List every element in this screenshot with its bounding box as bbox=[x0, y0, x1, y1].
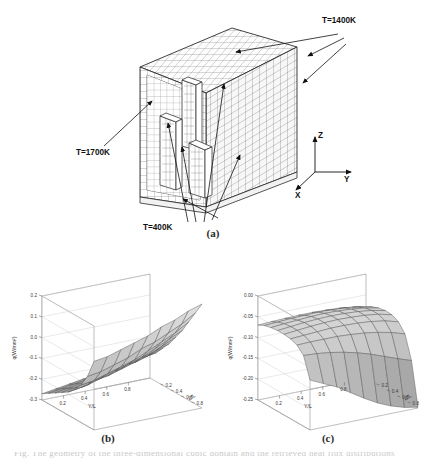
svg-text:0.2: 0.2 bbox=[59, 401, 66, 406]
svg-text:-0.10: -0.10 bbox=[243, 335, 254, 340]
label-t1700: T=1700K bbox=[76, 148, 110, 157]
label-t1400: T=1400K bbox=[322, 16, 356, 25]
svg-text:0.4: 0.4 bbox=[176, 389, 183, 394]
axis-triad: Z Y X bbox=[295, 131, 351, 200]
truncated-caption: Fig. The geometry of the three-dimension… bbox=[0, 452, 432, 468]
svg-text:0.8: 0.8 bbox=[340, 387, 347, 392]
svg-text:-0.1: -0.1 bbox=[29, 355, 37, 360]
svg-text:0.8: 0.8 bbox=[413, 401, 420, 406]
svg-text:0.4: 0.4 bbox=[297, 396, 304, 401]
svg-text:0.2: 0.2 bbox=[275, 401, 282, 406]
svg-text:0.6: 0.6 bbox=[319, 392, 326, 397]
axis-label-y: Y bbox=[344, 175, 350, 184]
axis-label-z: Z bbox=[318, 131, 323, 140]
svg-text:0.2: 0.2 bbox=[381, 383, 388, 388]
x-axis-title-b: Y/L bbox=[88, 403, 96, 409]
svg-text:-0.05: -0.05 bbox=[243, 314, 254, 319]
axis-label-x: X bbox=[295, 191, 301, 200]
figure-container: T=1400K T=1700K T=400K Z Y X (a) 0.20.10… bbox=[0, 0, 432, 468]
y-axis-title-b: Z/L bbox=[187, 392, 197, 401]
svg-text:0.4: 0.4 bbox=[392, 389, 399, 394]
svg-text:0.2: 0.2 bbox=[165, 383, 172, 388]
surface-c: 0.00-0.05-0.10-0.15-0.20-0.250.80.60.40.… bbox=[216, 252, 432, 444]
svg-text:-0.15: -0.15 bbox=[243, 355, 254, 360]
panel-b-surface-plot: 0.20.10.0-0.1-0.2-0.30.80.60.40.2Y/L0.80… bbox=[0, 252, 216, 444]
z-axis-title-b: q(W/mm²) bbox=[11, 336, 17, 359]
svg-text:0.4: 0.4 bbox=[81, 396, 88, 401]
svg-text:-0.2: -0.2 bbox=[29, 376, 37, 381]
caption-panel-c: (c) bbox=[308, 432, 348, 444]
surface-b: 0.20.10.0-0.1-0.2-0.30.80.60.40.2Y/L0.80… bbox=[0, 252, 216, 444]
label-t400: T=400K bbox=[143, 223, 172, 232]
svg-text:0.6: 0.6 bbox=[103, 392, 110, 397]
panel-c-surface-plot: 0.00-0.05-0.10-0.15-0.20-0.250.80.60.40.… bbox=[216, 252, 432, 444]
truncated-caption-text: Fig. The geometry of the three-dimension… bbox=[0, 452, 432, 458]
caption-panel-a: (a) bbox=[193, 227, 233, 239]
svg-text:-0.3: -0.3 bbox=[29, 397, 37, 402]
panel-a-geometry: T=1400K T=1700K T=400K Z Y X bbox=[0, 0, 432, 250]
svg-text:0.8: 0.8 bbox=[197, 401, 204, 406]
svg-text:0.00: 0.00 bbox=[244, 293, 253, 298]
svg-text:0.1: 0.1 bbox=[31, 314, 38, 319]
svg-text:0.0: 0.0 bbox=[31, 335, 38, 340]
caption-panel-b: (b) bbox=[88, 432, 128, 444]
svg-text:-0.25: -0.25 bbox=[243, 397, 254, 402]
svg-text:0.2: 0.2 bbox=[31, 293, 38, 298]
x-axis-title-c: Y/L bbox=[304, 403, 312, 409]
svg-text:0.8: 0.8 bbox=[124, 387, 131, 392]
svg-text:-0.20: -0.20 bbox=[243, 376, 254, 381]
z-axis-title-c: q(W/mm²) bbox=[227, 336, 233, 359]
